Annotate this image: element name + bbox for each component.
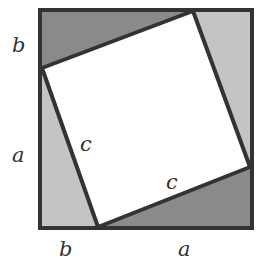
label-bottom-left: b — [59, 237, 72, 261]
label-left-top: b — [12, 33, 25, 57]
label-hyp-bottom: c — [166, 170, 178, 194]
label-hyp-left: c — [80, 132, 92, 156]
label-left-bottom: a — [12, 143, 25, 167]
label-bottom-right: a — [178, 237, 191, 261]
pythagorean-diagram: b a b a c c — [0, 0, 263, 272]
